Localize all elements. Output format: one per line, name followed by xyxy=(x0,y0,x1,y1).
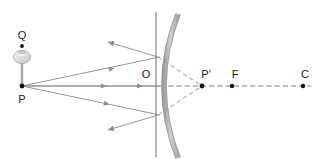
optics-diagram-canvas: Q P O P′ F C xyxy=(0,0,322,159)
reflected-ray-upper xyxy=(108,42,158,57)
point-dot-Q xyxy=(20,44,24,48)
ray-diagram-svg: Q P O P′ F C xyxy=(0,0,322,159)
incident-ray-lower xyxy=(22,86,160,115)
incident-ray-upper xyxy=(22,57,160,86)
label-Q: Q xyxy=(18,29,27,41)
label-F: F xyxy=(232,68,239,80)
incident-ray-axis-arrow-2 xyxy=(137,83,143,88)
label-P: P xyxy=(18,93,25,105)
bulb-filament-base xyxy=(19,51,25,54)
incident-ray-lower-arrow xyxy=(103,101,110,107)
reflected-ray-lower xyxy=(108,115,158,130)
label-O: O xyxy=(142,68,151,80)
point-dot-P-prime xyxy=(200,84,205,89)
label-P-prime: P′ xyxy=(201,68,210,80)
label-C: C xyxy=(301,68,309,80)
point-dot-P xyxy=(20,84,25,89)
incident-ray-axis-arrow-1 xyxy=(101,83,107,88)
point-dot-C xyxy=(301,84,305,88)
point-dot-F xyxy=(230,84,234,88)
